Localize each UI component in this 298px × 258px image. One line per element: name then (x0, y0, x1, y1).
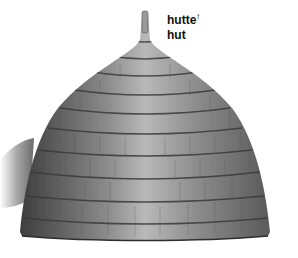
label-english: hut (167, 28, 199, 43)
caption-labels: huttef hut (167, 9, 199, 43)
hut-pinnacle (142, 11, 148, 33)
hut-dome (20, 14, 270, 241)
thatched-hut-illustration (0, 0, 298, 258)
label-french-text: hutte (167, 13, 196, 27)
label-french: huttef (167, 9, 199, 28)
label-french-gender: f (197, 13, 199, 20)
